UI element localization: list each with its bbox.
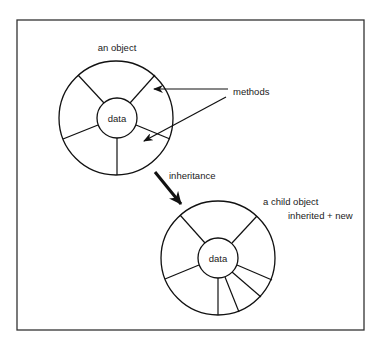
oop-inheritance-diagram: an object data methods inheritance a chi… xyxy=(0,0,377,342)
methods-label: methods xyxy=(233,86,270,97)
parent-label: an object xyxy=(98,42,137,53)
child-sublabel: inherited + new xyxy=(288,210,353,221)
child-data-label: data xyxy=(209,253,228,264)
parent-method-divider xyxy=(136,125,170,139)
parent-object: an object data xyxy=(59,42,173,175)
child-label: a child object xyxy=(263,196,319,207)
child-new-method-divider xyxy=(225,277,239,312)
inheritance-label: inheritance xyxy=(169,170,215,181)
parent-method-divider xyxy=(63,125,98,139)
child-method-divider xyxy=(180,215,205,243)
child-new-method-divider xyxy=(237,265,272,280)
child-new-method-divider xyxy=(232,272,261,297)
parent-method-divider xyxy=(130,75,155,103)
methods-callout: methods xyxy=(144,86,270,141)
parent-data-label: data xyxy=(108,113,127,124)
child-method-divider xyxy=(165,265,199,279)
child-method-divider xyxy=(232,216,257,243)
parent-method-divider xyxy=(78,75,104,103)
inheritance-relation: inheritance xyxy=(155,170,215,204)
methods-arrow xyxy=(144,97,226,141)
child-object: a child object inherited + new data xyxy=(161,196,353,315)
